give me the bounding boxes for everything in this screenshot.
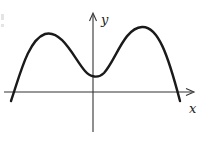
x-axis-label: x bbox=[189, 102, 196, 115]
function-curve bbox=[11, 27, 180, 101]
y-axis-label: y bbox=[101, 13, 108, 26]
